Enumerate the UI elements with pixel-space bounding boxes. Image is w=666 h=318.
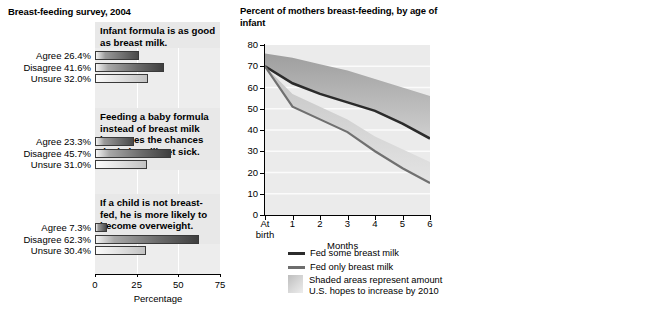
left-panel-survey: Breast-feeding survey, 2004 Infant formu… [0,0,232,318]
middle-y-tick-mark [260,88,264,89]
response-label: Agree 23.3% [0,136,91,147]
middle-y-tick-label: 80 [234,39,258,50]
infographic-root: Breast-feeding survey, 2004 Infant formu… [0,0,666,318]
middle-y-tick-mark [260,194,264,195]
middle-y-tick-label: 20 [234,167,258,178]
middle-x-tick-label: 1 [281,218,305,229]
response-label: Unsure 32.0% [0,73,91,84]
left-tick-label: 25 [125,279,149,290]
legend-line-swatch [288,266,305,269]
middle-y-axis-line [264,44,265,216]
response-label: Agree 26.4% [0,50,91,61]
legend-item: Fed only breast milk [288,262,449,273]
left-x-axis-line [95,274,221,275]
middle-y-tick-mark [260,151,264,152]
left-tick-label: 75 [208,279,232,290]
left-x-axis-label: Percentage [95,293,221,304]
breastfeeding-curves-svg [265,45,430,215]
middle-plot-area [265,45,430,215]
left-gridline [220,22,221,274]
right-panel-demographics: By raceWhiteBlackHispanicAsianBy age of … [440,0,666,318]
legend-label: Shaded areas represent amount U.S. hopes… [309,275,449,297]
left-tick-mark [95,274,96,277]
middle-x-tick-label: Atbirth [253,218,277,240]
middle-y-tick-mark [260,66,264,67]
survey-bar [95,246,146,255]
middle-x-tick-label: 2 [308,218,332,229]
middle-panel-linechart: Percent of mothers breast-feeding, by ag… [232,0,440,318]
response-label: Disagree 62.3% [0,234,91,245]
survey-bar [95,74,148,83]
middle-y-tick-mark [260,45,264,46]
left-panel-title: Breast-feeding survey, 2004 [8,6,131,17]
middle-x-tick-label: 5 [391,218,415,229]
middle-y-tick-mark [260,130,264,131]
legend-shade-swatch [288,275,303,293]
legend-label: Fed only breast milk [310,262,393,273]
legend-item: Fed some breast milk [288,248,449,259]
response-label: Disagree 45.7% [0,148,91,159]
survey-bar [95,149,171,158]
survey-bar [95,235,199,244]
left-tick-mark [137,274,138,277]
middle-y-tick-label: 40 [234,124,258,135]
survey-bar [95,137,134,146]
survey-bar [95,51,139,60]
middle-y-tick-label: 60 [234,82,258,93]
response-label: Unsure 30.4% [0,245,91,256]
left-tick-mark [220,274,221,277]
middle-legend: Fed some breast milkFed only breast milk… [288,248,449,300]
survey-bar [95,63,164,72]
response-label: Agree 7.3% [0,222,91,233]
middle-y-tick-mark [260,173,264,174]
middle-y-tick-label: 10 [234,188,258,199]
survey-statement: Infant formula is as good as breast milk… [95,22,220,48]
left-tick-label: 0 [83,279,107,290]
response-label: Disagree 41.6% [0,62,91,73]
survey-bar [95,160,147,169]
middle-y-tick-label: 50 [234,103,258,114]
middle-x-tick-label: 4 [363,218,387,229]
middle-panel-title: Percent of mothers breast-feeding, by ag… [240,5,440,28]
left-tick-label: 50 [166,279,190,290]
middle-y-tick-mark [260,109,264,110]
middle-y-tick-label: 70 [234,60,258,71]
middle-y-tick-label: 30 [234,145,258,156]
legend-line-swatch [288,252,305,255]
middle-x-tick-label: 6 [418,218,442,229]
legend-label: Fed some breast milk [310,248,399,259]
survey-bar [95,223,107,232]
middle-x-tick-label: 3 [336,218,360,229]
middle-y-tick-mark [260,215,264,216]
left-tick-mark [178,274,179,277]
legend-item: Shaded areas represent amount U.S. hopes… [288,275,449,297]
response-label: Unsure 31.0% [0,159,91,170]
